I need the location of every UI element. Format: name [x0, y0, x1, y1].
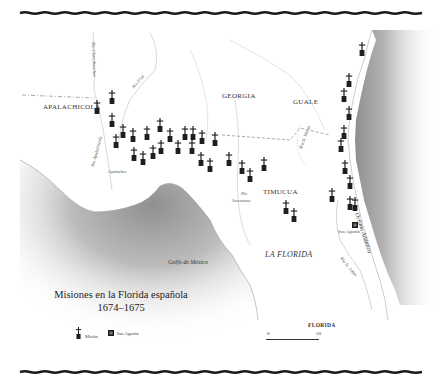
mission-cross-icon — [158, 140, 164, 154]
river-label-suwannee-2: Suwannee — [232, 198, 250, 203]
legend: Misión San Agustín — [75, 327, 149, 339]
mission-cross-icon — [199, 130, 205, 144]
legend-label-mission: Misión — [85, 334, 98, 339]
mission-cross-icon — [261, 157, 267, 171]
water-label-gulf: Golfo de México — [168, 259, 208, 265]
atlantic-ocean — [355, 30, 440, 305]
top-border — [20, 12, 422, 14]
mission-cross-icon — [131, 147, 137, 161]
mission-cross-icon — [341, 125, 347, 139]
mission-cross-icon — [109, 113, 115, 127]
mission-cross-icon — [167, 128, 173, 142]
scale-bar: 0 50 — [266, 323, 326, 343]
bottom-border — [20, 371, 422, 373]
map-title-line1: Misiones en la Florida española — [46, 288, 196, 301]
mission-cross-icon — [247, 168, 253, 182]
region-label-georgia: GEORGIA — [222, 92, 256, 100]
legend-item-mission: Misión — [75, 327, 98, 339]
boundary-line — [22, 95, 95, 98]
map-title: Misiones en la Florida española 1674–167… — [46, 288, 196, 314]
mission-cross-icon — [347, 196, 353, 210]
mission-cross-icon — [182, 126, 188, 140]
mission-cross-icon — [109, 90, 115, 104]
legend-item-san-agustin: San Agustín — [108, 330, 139, 336]
mission-cross-icon — [291, 208, 297, 222]
mission-cross-icon — [283, 200, 289, 214]
mission-cross-icon — [346, 73, 352, 87]
mission-cross-icon — [359, 42, 365, 56]
mission-cross-icon — [341, 88, 347, 102]
scale-line — [266, 339, 319, 340]
river-label-suwannee-1: Río — [241, 191, 247, 196]
place-label-san-agustin: San Agustín — [338, 229, 360, 234]
mission-cross-icon — [75, 327, 82, 339]
region-label-guale: GUALE — [293, 98, 318, 106]
mission-cross-icon — [342, 160, 348, 174]
mission-cross-icon — [338, 138, 344, 152]
mission-cross-icon — [226, 152, 232, 166]
mission-cross-icon — [120, 124, 126, 138]
georgia-river — [230, 40, 325, 130]
mission-cross-icon — [347, 175, 353, 189]
map-canvas — [0, 0, 444, 386]
san-agustin-square-icon — [108, 330, 114, 336]
mission-cross-icon — [207, 158, 213, 172]
mission-cross-icon — [198, 152, 204, 166]
mission-cross-icon — [189, 140, 195, 154]
mission-cross-icon — [190, 126, 196, 140]
mission-cross-icon — [212, 132, 218, 146]
mission-cross-icon — [157, 118, 163, 132]
mission-cross-icon — [140, 151, 146, 165]
mission-cross-icon — [113, 134, 119, 148]
map-title-line2: 1674–1675 — [46, 301, 196, 314]
region-label-apalachicola: APALACHICOLA — [43, 103, 100, 111]
mission-cross-icon — [329, 188, 335, 202]
place-label-apalachee: Apalachee — [108, 169, 127, 174]
mission-cross-icon — [150, 145, 156, 159]
scale-end-label: 50 — [316, 331, 321, 336]
mission-cross-icon — [346, 106, 352, 120]
missions-layer — [94, 42, 365, 222]
region-label-timucua: TIMUCUA — [263, 188, 298, 196]
legend-label-san-agustin: San Agustín — [117, 331, 139, 336]
mission-cross-icon — [175, 140, 181, 154]
mission-cross-icon — [144, 126, 150, 140]
scale-start-label: 0 — [267, 331, 270, 336]
mission-cross-icon — [130, 128, 136, 142]
mission-cross-icon — [239, 160, 245, 174]
region-label-la-florida: LA FLORIDA — [265, 250, 313, 259]
